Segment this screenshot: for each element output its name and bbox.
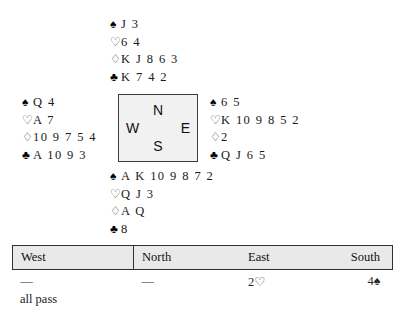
auction-table-wrapper: West North East South — — 2♡ 4♠ bbox=[12, 245, 346, 294]
hand-north-diamonds-cards: K J 8 6 3 bbox=[121, 52, 179, 66]
suit-row-hearts: ♡A 7 bbox=[22, 112, 97, 130]
hand-east-clubs-cards: Q J 6 5 bbox=[221, 148, 267, 162]
auction-bid-row: — — 2♡ 4♠ bbox=[13, 270, 393, 295]
hand-north-spades-cards: J 3 bbox=[121, 17, 139, 31]
club-icon: ♣ bbox=[210, 147, 221, 165]
hand-west-diamonds-cards: 10 9 7 5 4 bbox=[33, 130, 97, 144]
diamond-icon: ♢ bbox=[22, 129, 33, 147]
auction-header-north: North bbox=[134, 246, 241, 270]
suit-row-spades: ♠6 5 bbox=[210, 94, 300, 112]
hand-north-clubs-cards: K 7 4 2 bbox=[121, 70, 168, 84]
club-icon: ♣ bbox=[110, 221, 121, 239]
hand-east: ♠6 5 ♡K 10 9 8 5 2 ♢2 ♣Q J 6 5 bbox=[210, 94, 300, 164]
hand-west: ♠Q 4 ♡A 7 ♢10 9 7 5 4 ♣A 10 9 3 bbox=[22, 94, 97, 164]
hand-south-clubs-cards: 8 bbox=[121, 222, 129, 236]
suit-row-hearts: ♡6 4 bbox=[110, 34, 179, 52]
suit-row-diamonds: ♢2 bbox=[210, 129, 300, 147]
hand-east-diamonds-cards: 2 bbox=[221, 130, 229, 144]
hand-west-spades-cards: Q 4 bbox=[33, 95, 56, 109]
diamond-icon: ♢ bbox=[210, 129, 221, 147]
suit-row-spades: ♠Q 4 bbox=[22, 94, 97, 112]
compass-north-label: N bbox=[153, 103, 163, 117]
hand-west-clubs-cards: A 10 9 3 bbox=[33, 148, 87, 162]
hand-west-hearts-cards: A 7 bbox=[33, 113, 55, 127]
spade-icon: ♠ bbox=[110, 168, 121, 186]
heart-icon: ♡ bbox=[110, 34, 121, 52]
compass-east-label: E bbox=[181, 121, 190, 135]
suit-row-clubs: ♣A 10 9 3 bbox=[22, 147, 97, 165]
diamond-icon: ♢ bbox=[110, 51, 121, 69]
suit-row-clubs: ♣K 7 4 2 bbox=[110, 69, 179, 87]
hand-south: ♠A K 10 9 8 7 2 ♡Q J 3 ♢A Q ♣8 bbox=[110, 168, 214, 238]
auction-header-west: West bbox=[13, 246, 134, 270]
hand-east-hearts-cards: K 10 9 8 5 2 bbox=[221, 113, 300, 127]
bid-south: 4♠ bbox=[314, 270, 393, 295]
bid-east: 2♡ bbox=[240, 270, 314, 295]
auction-footer-all-pass: all pass bbox=[20, 292, 57, 307]
hand-north-hearts-cards: 6 4 bbox=[121, 35, 141, 49]
auction-header-south: South bbox=[314, 246, 393, 270]
suit-row-diamonds: ♢K J 8 6 3 bbox=[110, 51, 179, 69]
suit-row-hearts: ♡Q J 3 bbox=[110, 186, 214, 204]
hand-south-hearts-cards: Q J 3 bbox=[121, 187, 154, 201]
hand-south-diamonds-cards: A Q bbox=[121, 204, 146, 218]
spade-icon: ♠ bbox=[22, 94, 33, 112]
suit-row-clubs: ♣Q J 6 5 bbox=[210, 147, 300, 165]
club-icon: ♣ bbox=[22, 147, 33, 165]
auction-header-east: East bbox=[240, 246, 314, 270]
suit-row-spades: ♠J 3 bbox=[110, 16, 179, 34]
hand-north: ♠J 3 ♡6 4 ♢K J 8 6 3 ♣K 7 4 2 bbox=[110, 16, 179, 86]
suit-row-clubs: ♣8 bbox=[110, 221, 214, 239]
compass-box: N W E S bbox=[118, 94, 198, 162]
suit-row-hearts: ♡K 10 9 8 5 2 bbox=[210, 112, 300, 130]
heart-icon: ♡ bbox=[22, 112, 33, 130]
heart-icon: ♡ bbox=[210, 112, 221, 130]
diamond-icon: ♢ bbox=[110, 203, 121, 221]
suit-row-diamonds: ♢10 9 7 5 4 bbox=[22, 129, 97, 147]
hand-south-spades-cards: A K 10 9 8 7 2 bbox=[121, 169, 214, 183]
compass-west-label: W bbox=[126, 121, 139, 135]
spade-icon: ♠ bbox=[110, 16, 121, 34]
bid-west: — bbox=[13, 270, 134, 295]
auction-table: West North East South — — 2♡ 4♠ bbox=[12, 245, 393, 294]
club-icon: ♣ bbox=[110, 69, 121, 87]
suit-row-diamonds: ♢A Q bbox=[110, 203, 214, 221]
suit-row-spades: ♠A K 10 9 8 7 2 bbox=[110, 168, 214, 186]
bid-north: — bbox=[134, 270, 241, 295]
hand-east-spades-cards: 6 5 bbox=[221, 95, 241, 109]
bridge-deal-diagram: ♠J 3 ♡6 4 ♢K J 8 6 3 ♣K 7 4 2 ♠Q 4 ♡A 7 … bbox=[0, 0, 358, 240]
compass-south-label: S bbox=[153, 139, 162, 153]
heart-icon: ♡ bbox=[110, 186, 121, 204]
auction-header-row: West North East South bbox=[13, 246, 393, 270]
spade-icon: ♠ bbox=[210, 94, 221, 112]
